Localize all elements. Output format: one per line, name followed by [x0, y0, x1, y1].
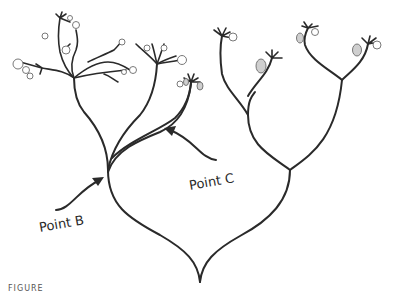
point-b-annotation: Point B: [38, 177, 104, 235]
left-clade: [13, 12, 191, 170]
figure-caption: FIGURE: [8, 284, 44, 293]
point-c-branch: [108, 74, 203, 172]
point-c-label: Point C: [188, 170, 235, 193]
fruit-icon: [13, 59, 23, 69]
pear-icon: [256, 59, 266, 73]
point-b-label: Point B: [38, 212, 85, 235]
right-clade: [214, 22, 381, 170]
middle-tuft: [136, 44, 187, 65]
point-c-annotation: Point C: [164, 126, 235, 193]
